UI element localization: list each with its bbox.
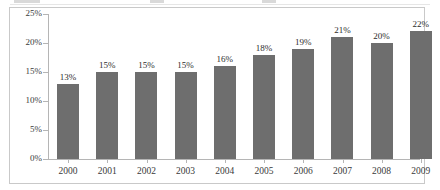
x-axis-tick bbox=[303, 159, 304, 163]
y-axis-tick-label: 15% bbox=[0, 67, 42, 76]
x-axis-tick bbox=[225, 159, 226, 163]
y-axis-tick bbox=[43, 43, 48, 44]
y-axis-tick-label: 5% bbox=[0, 125, 42, 134]
artifact-rule bbox=[10, 4, 430, 5]
bar bbox=[410, 31, 432, 159]
y-axis-tick bbox=[43, 159, 48, 160]
x-axis-tick bbox=[421, 159, 422, 163]
bar bbox=[214, 66, 236, 159]
y-axis-tick-label: 25% bbox=[0, 9, 42, 18]
y-axis-tick-label: 20% bbox=[0, 38, 42, 47]
y-axis-tick bbox=[43, 130, 48, 131]
bar-value-label: 16% bbox=[202, 54, 248, 64]
bar-value-label: 13% bbox=[45, 72, 91, 82]
bar-value-label: 22% bbox=[398, 19, 440, 29]
x-axis-category-label: 2009 bbox=[398, 166, 440, 177]
chart-frame: 0%5%10%15%20%25% 13%15%15%15%16%18%19%21… bbox=[9, 7, 425, 184]
bar bbox=[253, 55, 275, 159]
bar bbox=[57, 84, 79, 159]
y-axis-line bbox=[48, 14, 49, 160]
x-axis-tick bbox=[147, 159, 148, 163]
bar bbox=[292, 49, 314, 159]
y-axis-tick-label: 0% bbox=[0, 154, 42, 163]
y-axis-tick bbox=[43, 101, 48, 102]
bar bbox=[96, 72, 118, 159]
artifact-mark bbox=[14, 0, 40, 3]
x-axis-tick bbox=[186, 159, 187, 163]
artifact-mark bbox=[262, 0, 276, 3]
bar bbox=[175, 72, 197, 159]
x-axis-tick bbox=[107, 159, 108, 163]
bar-chart-plot-area: 0%5%10%15%20%25% 13%15%15%15%16%18%19%21… bbox=[10, 8, 426, 185]
bar bbox=[371, 43, 393, 159]
cropped-header-artifact bbox=[0, 0, 440, 6]
x-axis-tick bbox=[264, 159, 265, 163]
y-axis-tick bbox=[43, 14, 48, 15]
artifact-mark bbox=[150, 0, 164, 3]
x-axis-line bbox=[48, 159, 420, 160]
y-axis-tick-label: 10% bbox=[0, 96, 42, 105]
bar bbox=[135, 72, 157, 159]
bar bbox=[331, 37, 353, 159]
x-axis-tick bbox=[343, 159, 344, 163]
x-axis-tick bbox=[382, 159, 383, 163]
bar-value-label: 19% bbox=[280, 37, 326, 47]
x-axis-tick bbox=[68, 159, 69, 163]
bar-value-label: 20% bbox=[359, 31, 405, 41]
